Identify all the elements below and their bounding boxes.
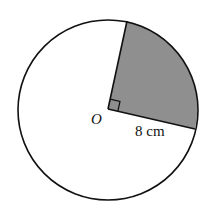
- radius-label: 8 cm: [135, 123, 165, 139]
- circle-sector-diagram: O 8 cm: [0, 0, 207, 210]
- center-label: O: [91, 111, 102, 127]
